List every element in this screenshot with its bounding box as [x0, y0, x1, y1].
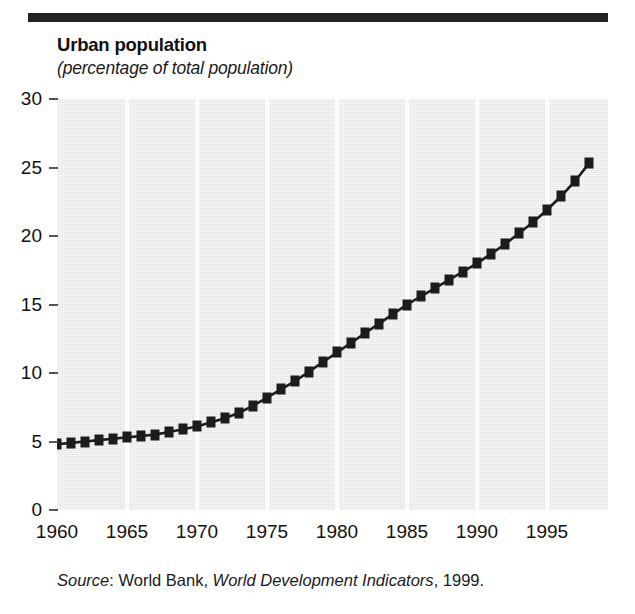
figure-container: Urban population (percentage of total po… [0, 0, 635, 614]
data-point-marker [473, 258, 482, 269]
y-axis-tick-15 [49, 304, 58, 306]
data-point-marker [67, 437, 76, 448]
y-axis-tick-0 [49, 509, 58, 511]
y-axis-label-0: 0 [0, 500, 42, 519]
data-point-marker [403, 299, 412, 310]
source-publisher: World Bank, [118, 571, 212, 589]
top-rule-divider [28, 13, 608, 22]
data-point-marker [375, 318, 384, 329]
data-point-marker [347, 337, 356, 348]
y-axis-label-25: 25 [0, 158, 42, 177]
y-axis-tick-20 [49, 235, 58, 237]
x-axis-label-1975: 1975 [232, 521, 302, 542]
y-axis-label-30: 30 [0, 89, 42, 108]
y-axis-tick-10 [49, 372, 58, 374]
title-block: Urban population (percentage of total po… [57, 34, 577, 79]
data-point-marker [529, 217, 538, 228]
plot-area [57, 99, 608, 510]
data-point-marker [571, 176, 580, 187]
data-point-marker [235, 407, 244, 418]
data-point-marker [151, 429, 160, 440]
data-point-marker [137, 431, 146, 442]
source-year: , 1999. [434, 571, 484, 589]
x-axis-label-1990: 1990 [442, 521, 512, 542]
data-point-marker [361, 328, 370, 339]
data-point-marker [221, 413, 230, 424]
source-label: Source [57, 571, 109, 589]
series-line-svg [57, 99, 608, 510]
chart-subtitle: (percentage of total population) [57, 57, 577, 79]
source-work-title: World Development Indicators [213, 571, 434, 589]
data-point-marker [207, 417, 216, 428]
data-point-marker [487, 248, 496, 259]
data-point-marker [305, 366, 314, 377]
chart-title: Urban population [57, 34, 577, 56]
data-point-marker [417, 291, 426, 302]
y-axis-label-5: 5 [0, 432, 42, 451]
data-point-marker [109, 433, 118, 444]
data-point-marker [81, 436, 90, 447]
x-axis-label-1995: 1995 [512, 521, 582, 542]
y-axis-tick-30 [49, 98, 58, 100]
data-point-marker [319, 357, 328, 368]
x-axis-label-1980: 1980 [302, 521, 372, 542]
data-point-marker [123, 432, 132, 443]
x-axis-label-1970: 1970 [162, 521, 232, 542]
y-axis-label-15: 15 [0, 295, 42, 314]
data-point-marker [95, 435, 104, 446]
y-axis-tick-5 [49, 441, 58, 443]
data-point-marker [557, 191, 566, 202]
data-point-marker [431, 283, 440, 294]
source-caption: Source: World Bank, World Development In… [57, 570, 484, 590]
data-point-marker [277, 384, 286, 395]
data-point-marker [179, 424, 188, 435]
x-axis-label-1960: 1960 [22, 521, 92, 542]
data-point-marker [515, 228, 524, 239]
data-point-marker [291, 376, 300, 387]
data-point-marker [389, 309, 398, 320]
x-axis-label-1985: 1985 [372, 521, 442, 542]
series-polyline [57, 163, 589, 444]
data-point-marker [445, 274, 454, 285]
x-axis-label-1965: 1965 [92, 521, 162, 542]
data-point-marker [333, 347, 342, 358]
y-axis-label-10: 10 [0, 363, 42, 382]
data-point-marker [249, 400, 258, 411]
data-point-marker [585, 158, 594, 169]
data-point-marker [501, 239, 510, 250]
y-axis-tick-25 [49, 167, 58, 169]
data-point-marker [193, 421, 202, 432]
data-point-marker [165, 426, 174, 437]
data-point-marker [543, 204, 552, 215]
y-axis-label-20: 20 [0, 226, 42, 245]
data-point-marker [459, 266, 468, 277]
data-point-marker [263, 392, 272, 403]
